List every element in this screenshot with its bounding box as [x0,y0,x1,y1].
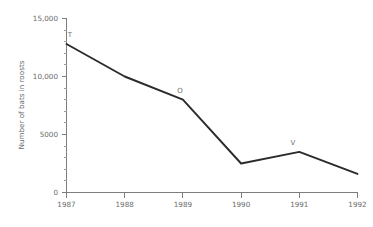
y-tick-label-0: 0 [53,188,58,197]
point-annotations: T O V [67,31,296,147]
x-axis: 1987 1988 1989 1990 1991 1992 [57,193,366,210]
x-tick-label-1992: 1992 [348,200,366,209]
y-axis-title: Number of bats in roosts [17,60,26,149]
x-tick-label-1988: 1988 [116,200,135,209]
annotation-label-o: O [177,87,183,95]
y-tick-label-15000: 15,000 [33,14,59,23]
series-line-bats [67,44,358,174]
y-axis: 15,000 10,000 5000 0 Number of bats in r… [17,14,67,197]
x-tick-label-1989: 1989 [174,200,193,209]
x-tick-label-1987: 1987 [57,200,75,209]
data-series-group [67,44,358,174]
x-tick-label-1990: 1990 [232,200,251,209]
x-tick-label-1991: 1991 [290,200,308,209]
chart-canvas: 15,000 10,000 5000 0 Number of bats in r… [0,0,373,227]
line-chart-figure: 15,000 10,000 5000 0 Number of bats in r… [0,0,373,227]
y-tick-label-10000: 10,000 [33,72,59,81]
y-tick-label-5000: 5000 [40,130,59,139]
annotation-label-t: T [67,31,73,39]
annotation-label-v: V [291,139,296,147]
